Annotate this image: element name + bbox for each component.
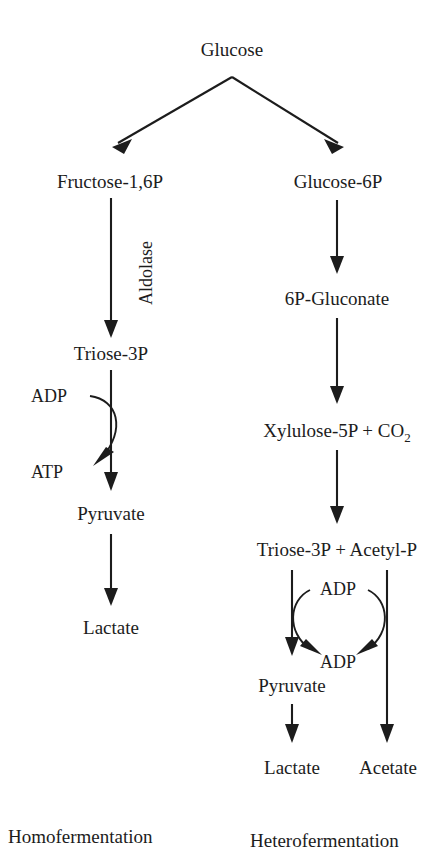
arrow-head-glucose6p-to-gluconate xyxy=(330,256,344,274)
arrow-pyruvate-to-lactate-right xyxy=(285,704,299,743)
cofactor-atp-left: ATP xyxy=(31,462,63,482)
node-xylulose-5p-text: Xylulose-5P + CO xyxy=(263,420,404,441)
curved-arrow-adp-left-arc xyxy=(293,590,322,655)
node-fructose-1-6p: Fructose-1,6P xyxy=(57,171,163,192)
arrow-head-xylulose-to-triose-acetyl xyxy=(330,506,344,524)
fermentation-pathway-diagram: Glucose Fructose-1,6P Aldolase Triose-3P… xyxy=(0,0,448,860)
cofactor-adp-left: ADP xyxy=(31,386,67,406)
enzyme-label-aldolase: Aldolase xyxy=(136,241,156,305)
cofactor-adp-right-bottom: ADP xyxy=(320,652,356,672)
arrow-head-adp-right-arc xyxy=(356,639,378,655)
arrow-gluconate-to-xylulose xyxy=(330,318,344,404)
node-acetate-right: Acetate xyxy=(359,757,417,778)
node-lactate-right: Lactate xyxy=(264,757,320,778)
node-glucose-6p: Glucose-6P xyxy=(294,171,383,192)
arrow-head-adp-left-arc xyxy=(300,639,322,655)
arrow-fructose-to-triose xyxy=(104,198,118,338)
node-triose-3p-left: Triose-3P xyxy=(74,343,148,364)
curved-arrow-adp-to-atp-left xyxy=(90,396,116,466)
arrow-xylulose-to-triose-acetyl xyxy=(330,450,344,524)
arrow-head-triose-to-pyruvate-left xyxy=(104,472,118,491)
arrow-head-triose-to-pyruvate-right xyxy=(285,637,299,656)
pathway-label-homofermentation: Homofermentation xyxy=(8,826,153,847)
node-xylulose-5p: Xylulose-5P + CO2 xyxy=(263,420,410,445)
curved-arrow-adp-right-arc xyxy=(356,590,385,655)
arrow-triose-to-pyruvate-right xyxy=(285,570,299,656)
branch-arrow-to-fructose xyxy=(112,77,232,154)
node-glucose: Glucose xyxy=(201,39,263,60)
node-triose-3p-acetyl-p: Triose-3P + Acetyl-P xyxy=(257,539,417,560)
arrow-glucose6p-to-gluconate xyxy=(330,200,344,274)
cofactor-adp-right-top: ADP xyxy=(320,579,356,599)
arrow-head-acetylp-to-acetate xyxy=(380,724,394,743)
arrow-acetylp-to-acetate xyxy=(380,570,394,743)
branch-arrow-to-glucose6p xyxy=(232,77,344,154)
node-lactate-left: Lactate xyxy=(83,617,139,638)
node-6p-gluconate: 6P-Gluconate xyxy=(285,288,389,309)
pathway-label-heterofermentation: Heterofermentation xyxy=(250,830,399,851)
arrow-head-gluconate-to-xylulose xyxy=(330,386,344,404)
arrow-head-pyruvate-to-lactate-left xyxy=(104,588,118,606)
node-xylulose-5p-subscript: 2 xyxy=(404,430,411,445)
node-pyruvate-right: Pyruvate xyxy=(258,675,326,696)
arrow-pyruvate-to-lactate-left xyxy=(104,534,118,606)
node-pyruvate-left: Pyruvate xyxy=(77,503,145,524)
arrow-head-fructose-to-triose xyxy=(104,320,118,338)
arrow-head-pyruvate-to-lactate-right xyxy=(285,724,299,743)
